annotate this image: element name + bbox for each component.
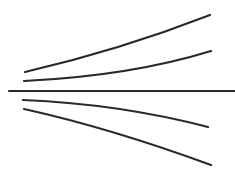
lower-outer-curve	[24, 109, 211, 165]
upper-outer-curve	[25, 15, 210, 72]
lower-inner-curve	[23, 100, 208, 127]
diagram-svg	[0, 0, 235, 176]
diverging-lines-diagram	[0, 0, 235, 176]
